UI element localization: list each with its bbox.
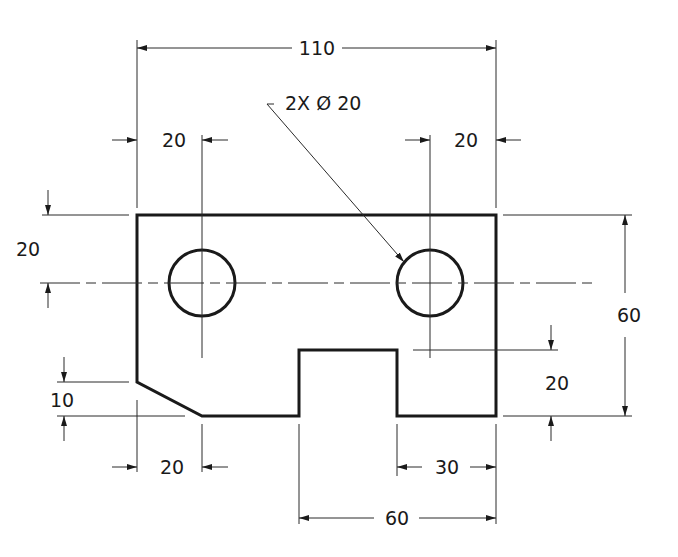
dim-hole-y: 20 <box>16 190 48 308</box>
dim-label-notch-span: 60 <box>385 507 409 529</box>
dim-label-chamfer-height: 10 <box>50 389 74 411</box>
dim-label-notch-step: 30 <box>435 456 459 478</box>
dim-label-notch-depth: 20 <box>545 372 569 394</box>
center-lines <box>40 135 592 358</box>
dim-label-60-height: 60 <box>617 304 641 326</box>
dim-right-hole-x: 20 <box>405 129 521 151</box>
dim-overall-width: 110 <box>137 37 496 59</box>
dim-notch-step: 30 <box>397 456 496 478</box>
dim-label-110: 110 <box>299 37 335 59</box>
dim-left-hole-x: 20 <box>112 129 228 151</box>
dim-label-left-hole-x: 20 <box>162 129 186 151</box>
dim-overall-height: 60 <box>617 215 641 416</box>
dim-notch-span: 60 <box>299 507 496 529</box>
dim-label-hole-y: 20 <box>16 238 40 260</box>
technical-drawing: 110 2X Ø 20 20 20 20 60 20 10 <box>0 0 678 557</box>
dim-chamfer-width: 20 <box>112 456 228 478</box>
dim-label-chamfer-width: 20 <box>160 456 184 478</box>
hole-callout: 2X Ø 20 <box>267 92 404 262</box>
dim-notch-depth: 20 <box>545 325 569 441</box>
dim-label-right-hole-x: 20 <box>454 129 478 151</box>
dim-chamfer-height: 10 <box>50 357 74 441</box>
hole-callout-label: 2X Ø 20 <box>285 92 361 114</box>
